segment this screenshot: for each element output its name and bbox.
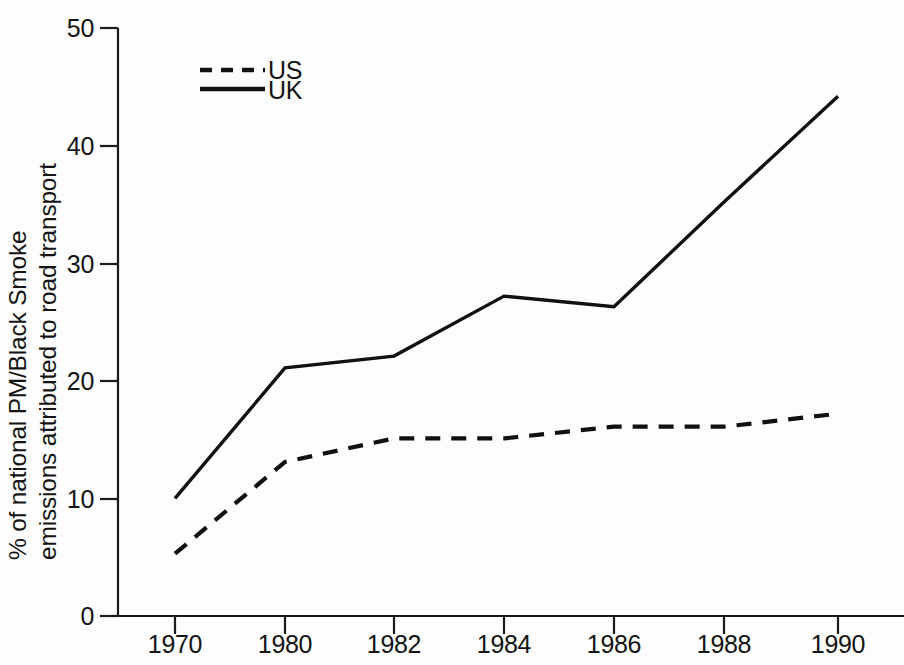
chart-container: % of national PM/Black Smoke emissions a…	[0, 0, 904, 665]
x-axis-ticks	[175, 616, 838, 634]
series-line-us	[175, 414, 838, 554]
plot-area	[0, 0, 904, 665]
y-axis-ticks	[100, 28, 118, 616]
